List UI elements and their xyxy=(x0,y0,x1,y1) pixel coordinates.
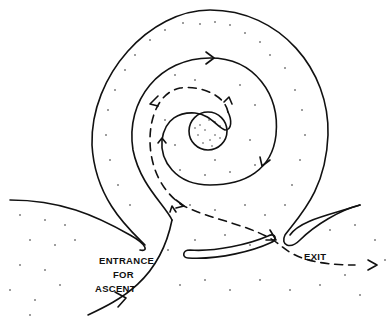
exit-label: EXIT xyxy=(304,251,326,262)
entrance-label-line2: FOR xyxy=(113,269,134,280)
baffle-bar xyxy=(184,235,275,258)
entrance-label-line1: ENTRANCE xyxy=(99,255,154,266)
entrance-label-line3: ASCENT xyxy=(95,283,136,294)
stipple-texture xyxy=(9,21,386,316)
spiral-ascent-diagram: ENTRANCE FOR ASCENT EXIT xyxy=(0,0,387,323)
arrowheads xyxy=(115,52,377,307)
inner-spiral-wall xyxy=(132,58,277,220)
